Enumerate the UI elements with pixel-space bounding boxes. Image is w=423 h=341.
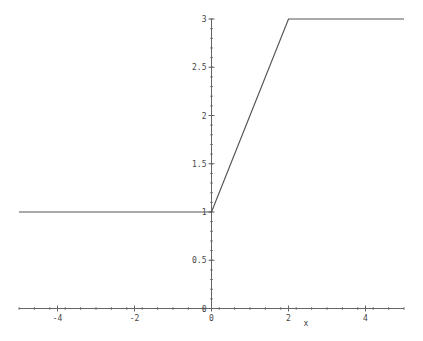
- line-chart: -4-202400.511.522.53 x: [0, 0, 423, 341]
- y-tick-label: 3: [202, 15, 207, 24]
- x-tick-label: 4: [363, 314, 368, 323]
- x-tick-label: -2: [130, 314, 140, 323]
- x-tick-label: 2: [286, 314, 291, 323]
- y-tick-label: 2.5: [192, 63, 207, 72]
- y-tick-label: 2: [202, 112, 207, 121]
- y-tick-label: 0: [202, 305, 207, 314]
- y-tick-label: 1.5: [192, 160, 207, 169]
- y-tick-label: 0.5: [192, 256, 207, 265]
- x-tick-label: -4: [53, 314, 63, 323]
- x-tick-label: 0: [209, 314, 214, 323]
- x-axis-label: x: [304, 319, 309, 328]
- axes: -4-202400.511.522.53: [19, 15, 404, 323]
